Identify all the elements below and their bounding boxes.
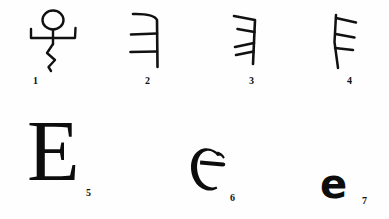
item-number-3: 3 (249, 76, 254, 86)
reversed-e-curved-glyph (126, 10, 170, 70)
e-rotated-glyph (327, 12, 365, 70)
item-number-2: 2 (145, 76, 150, 86)
item-number-1: 1 (33, 76, 38, 86)
item-number-4: 4 (347, 76, 352, 86)
uncial-e-glyph (190, 146, 226, 192)
lowercase-e-bold-glyph: e (320, 168, 347, 200)
glyph-lowercase-e-bold: e (320, 168, 347, 200)
reversed-e-slanted-glyph (228, 10, 268, 70)
stick-figure-glyph (22, 8, 84, 72)
item-number-7: 7 (362, 196, 367, 206)
letter-evolution-figure: 1 2 3 (0, 0, 389, 219)
item-number-5: 5 (86, 188, 91, 198)
capital-e-serif-glyph: E (27, 118, 80, 185)
glyph-capital-e-serif: E (27, 118, 80, 185)
item-number-6: 6 (230, 193, 235, 203)
